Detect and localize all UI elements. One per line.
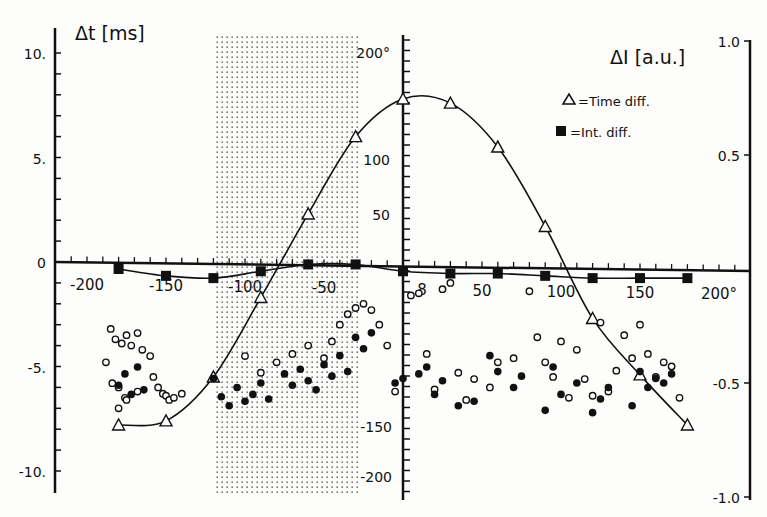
open-circle-marker xyxy=(589,393,595,399)
filled-circle-marker xyxy=(455,402,463,410)
right-tick-label: 0.5 xyxy=(718,148,740,164)
filled-circle-marker xyxy=(652,375,660,383)
legend-entry-time-diff: =Time diff. xyxy=(563,94,650,109)
left-tick-label: -10. xyxy=(19,464,46,480)
square-marker xyxy=(588,273,598,283)
open-circle-marker xyxy=(289,351,295,357)
filled-circle-marker xyxy=(541,407,549,415)
filled-circle-marker xyxy=(121,370,129,378)
filled-circle-marker xyxy=(218,393,226,401)
filled-circle-marker xyxy=(312,386,320,394)
open-circle-marker xyxy=(305,342,311,348)
x-tick-label: 200° xyxy=(701,285,737,303)
x-tick-label: 150 xyxy=(626,284,655,302)
filled-circle-marker xyxy=(297,366,305,374)
x-tick-label: -50 xyxy=(312,279,337,297)
square-marker xyxy=(351,259,361,269)
filled-circle-marker xyxy=(589,409,597,417)
chart: 10.5.0-5.-10. Δt [ms] 1.00.5-0.5-1.0 ΔI … xyxy=(0,0,767,517)
center-tick-label: -150 xyxy=(360,419,392,435)
filled-circle-marker xyxy=(257,379,265,387)
filled-circle-marker xyxy=(241,397,249,405)
open-circle-marker xyxy=(416,290,422,296)
filled-circle-marker xyxy=(605,384,613,392)
square-marker xyxy=(445,269,455,279)
filled-circle-marker xyxy=(289,381,297,389)
open-circle-marker xyxy=(637,322,643,328)
open-circle-marker xyxy=(471,376,477,382)
open-circle-marker xyxy=(321,355,327,361)
filled-circle-marker xyxy=(265,395,273,403)
filled-circle-marker xyxy=(233,384,241,392)
open-circle-marker xyxy=(424,351,430,357)
center-tick-label: 200° xyxy=(356,45,390,61)
open-circle-marker xyxy=(329,338,335,344)
open-circle-marker xyxy=(661,359,667,365)
filled-circle-marker xyxy=(486,352,494,360)
open-circle-marker xyxy=(566,395,572,401)
square-marker xyxy=(208,273,218,283)
open-circle-marker xyxy=(542,359,548,365)
filled-circle-marker xyxy=(628,402,636,410)
svg-text:=Int. diff.: =Int. diff. xyxy=(570,125,631,140)
right-tick-label: 1.0 xyxy=(718,34,740,50)
open-circle-marker xyxy=(558,338,564,344)
filled-circle-marker xyxy=(336,352,344,360)
square-marker xyxy=(114,264,124,274)
filled-circle-marker xyxy=(225,402,233,410)
left-axis: 10.5.0-5.-10. Δt [ms] xyxy=(19,22,145,493)
x-tick-label: -100 xyxy=(228,278,262,296)
open-circle-marker xyxy=(155,384,161,390)
filled-circle-marker xyxy=(431,391,439,399)
square-marker xyxy=(682,273,692,283)
open-circle-marker xyxy=(128,342,134,348)
filled-circle-marker xyxy=(134,363,142,371)
open-circle-marker xyxy=(123,332,129,338)
open-circle-marker xyxy=(550,374,556,380)
square-marker xyxy=(161,271,171,281)
open-circle-marker xyxy=(123,397,129,403)
left-tick-label: 0 xyxy=(37,255,46,271)
open-circle-marker xyxy=(150,374,156,380)
filled-circle-marker xyxy=(660,379,668,387)
filled-square-icon xyxy=(556,126,566,136)
open-circle-marker xyxy=(463,397,469,403)
filled-circle-marker xyxy=(518,372,526,380)
open-circle-marker xyxy=(352,305,358,311)
series-open-circles-individual-time-diff- xyxy=(103,280,683,412)
square-marker xyxy=(635,273,645,283)
open-circle-marker xyxy=(526,288,532,294)
open-circle-marker xyxy=(115,405,121,411)
open-triangle-icon xyxy=(563,94,575,104)
open-circle-marker xyxy=(582,376,588,382)
filled-circle-marker xyxy=(573,379,581,387)
filled-circle-marker xyxy=(127,391,135,399)
x-tick-label: -200 xyxy=(70,276,104,294)
triangle-marker xyxy=(160,415,172,426)
open-circle-marker xyxy=(487,384,493,390)
series-layer xyxy=(103,93,694,430)
open-circle-marker xyxy=(139,347,145,353)
filled-circle-marker xyxy=(423,363,431,371)
open-circle-marker xyxy=(439,286,445,292)
open-circle-marker xyxy=(108,326,114,332)
filled-circle-marker xyxy=(597,395,605,403)
filled-circle-marker xyxy=(494,368,502,376)
filled-circle-marker xyxy=(281,370,289,378)
filled-circle-marker xyxy=(399,375,407,383)
open-circle-marker xyxy=(337,322,343,328)
filled-circle-marker xyxy=(668,370,676,378)
series-filled-circles-individual-int-diff- xyxy=(115,329,676,416)
open-circle-marker xyxy=(668,363,674,369)
filled-circle-marker xyxy=(557,391,565,399)
open-circle-marker xyxy=(645,351,651,357)
triangle-marker xyxy=(539,220,551,231)
right-axis-title: ΔI [a.u.] xyxy=(610,46,685,68)
filled-circle-marker xyxy=(328,372,336,380)
open-circle-marker xyxy=(134,388,140,394)
filled-circle-marker xyxy=(249,391,257,399)
open-circle-marker xyxy=(384,342,390,348)
filled-circle-marker xyxy=(510,384,518,392)
open-circle-marker xyxy=(534,334,540,340)
open-circle-marker xyxy=(134,330,140,336)
